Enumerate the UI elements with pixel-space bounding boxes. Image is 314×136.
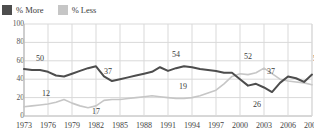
data-point-label: 12 [42,90,50,98]
x-tick-label: 1997 [208,121,224,131]
x-axis-ticks: 1973197619791982198519881991199419972000… [0,121,314,135]
data-point-label: 54 [172,51,180,59]
x-tick-label: 2000 [232,121,248,131]
legend-item-more[interactable]: % More [2,5,44,15]
data-point-label: 37 [104,68,112,76]
chart-container: % More % Less 100806040200 5012371754195… [0,0,314,136]
x-tick-label: 1976 [40,121,56,131]
data-point-label: 17 [92,108,100,116]
x-tick-label: 2003 [256,121,272,131]
legend-label-more: % More [16,5,44,15]
x-tick-label: 1988 [136,121,152,131]
x-tick-label: 1973 [16,121,32,131]
legend-swatch-more-icon [2,5,12,15]
legend-label-less: % Less [72,5,97,15]
data-point-label: 37 [267,68,275,76]
data-point-label: 19 [179,83,187,91]
data-point-label: 52 [244,53,252,61]
x-tick-label: 1982 [88,121,104,131]
data-point-label: 51 [313,55,314,63]
legend-item-less[interactable]: % Less [58,5,97,15]
x-tick-label: 1979 [64,121,80,131]
data-point-label: 26 [253,101,261,109]
x-tick-label: 1991 [160,121,176,131]
x-tick-label: 2009 [304,121,314,131]
chart-legend: % More % Less [2,3,110,17]
x-tick-label: 2006 [280,121,296,131]
x-tick-label: 1985 [112,121,128,131]
x-tick-label: 1994 [184,121,200,131]
data-point-label: 50 [36,55,44,63]
legend-swatch-less-icon [58,5,68,15]
plot-area: 5012371754195226375129 [0,20,314,120]
